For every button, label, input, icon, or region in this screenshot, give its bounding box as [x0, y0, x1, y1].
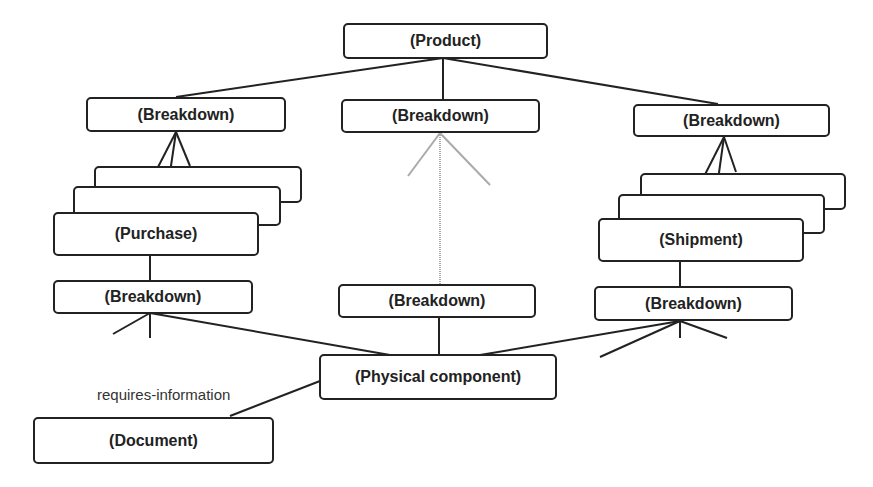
shipment-label: (Shipment)	[659, 231, 743, 249]
breakdown-right-label: (Breakdown)	[683, 112, 780, 130]
product-node[interactable]: (Product)	[343, 23, 548, 59]
diagram-canvas: (Product) (Breakdown) (Breakdown) (Break…	[0, 0, 873, 487]
breakdown-center-lower-label: (Breakdown)	[389, 292, 486, 310]
product-label: (Product)	[410, 32, 481, 50]
faded-edges	[408, 133, 490, 285]
document-label: (Document)	[109, 432, 198, 450]
breakdown-center-node[interactable]: (Breakdown)	[341, 99, 540, 133]
breakdown-right-lower-node[interactable]: (Breakdown)	[594, 286, 793, 321]
breakdown-right-node[interactable]: (Breakdown)	[633, 104, 830, 137]
purchase-node[interactable]: (Purchase)	[53, 212, 259, 256]
purchase-label: (Purchase)	[115, 225, 198, 243]
breakdown-left-node[interactable]: (Breakdown)	[86, 97, 286, 132]
document-node[interactable]: (Document)	[33, 417, 274, 464]
physical-component-label: (Physical component)	[355, 368, 521, 386]
breakdown-left-lower-node[interactable]: (Breakdown)	[53, 280, 253, 314]
breakdown-center-label: (Breakdown)	[392, 107, 489, 125]
breakdown-left-label: (Breakdown)	[138, 106, 235, 124]
edge-product-breakdown-right	[443, 58, 718, 104]
breakdown-center-lower-node[interactable]: (Breakdown)	[338, 284, 536, 318]
breakdown-right-lower-label: (Breakdown)	[645, 295, 742, 313]
edge-product-breakdown-left	[176, 58, 443, 97]
requires-information-label: requires-information	[97, 386, 230, 403]
breakdown-left-lower-label: (Breakdown)	[105, 288, 202, 306]
physical-component-node[interactable]: (Physical component)	[319, 354, 557, 400]
shipment-node[interactable]: (Shipment)	[598, 218, 804, 262]
